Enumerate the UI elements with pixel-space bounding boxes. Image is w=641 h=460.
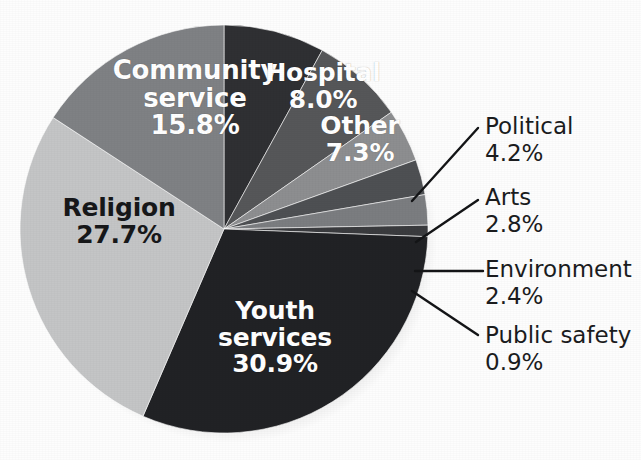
pie-chart-graphic bbox=[0, 0, 641, 460]
callout-political-value: 4.2% bbox=[485, 140, 573, 167]
callout-label-arts: Arts 2.8% bbox=[485, 184, 543, 237]
callout-label-political: Political 4.2% bbox=[485, 113, 573, 166]
callout-label-environment: Environment 2.4% bbox=[485, 256, 632, 309]
pie-chart-figure: Community service 15.8% Hospital 8.0% Ot… bbox=[0, 0, 641, 460]
callout-arts-value: 2.8% bbox=[485, 211, 543, 238]
callout-arts-name: Arts bbox=[485, 184, 543, 211]
callout-environment-name: Environment bbox=[485, 256, 632, 283]
callout-label-public-safety: Public safety 0.9% bbox=[485, 322, 631, 375]
callout-political-name: Political bbox=[485, 113, 573, 140]
callout-public-safety-name: Public safety bbox=[485, 322, 631, 349]
callout-public-safety-value: 0.9% bbox=[485, 349, 631, 376]
callout-environment-value: 2.4% bbox=[485, 283, 632, 310]
pie-slices-group bbox=[20, 25, 428, 433]
